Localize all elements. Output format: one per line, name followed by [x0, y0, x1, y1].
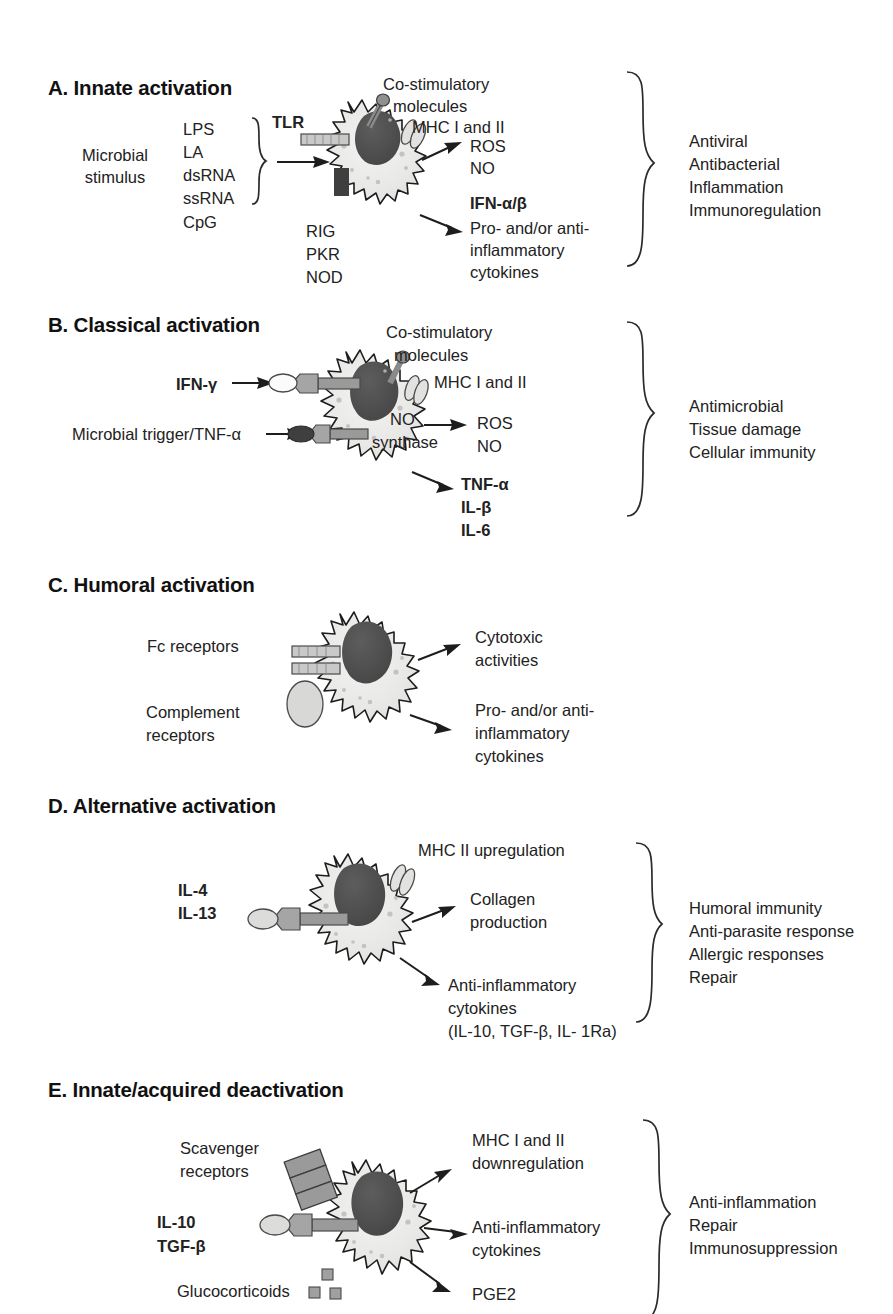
panel-e-effects-brace — [0, 0, 893, 1314]
panel-e-effect-repair: Repair — [689, 1215, 738, 1237]
panel-e-effect-immunosuppression: Immunosuppression — [689, 1238, 838, 1260]
panel-e-effect-anti-inflammation: Anti-inflammation — [689, 1192, 816, 1214]
